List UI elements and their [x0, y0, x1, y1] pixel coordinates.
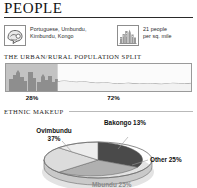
fact-density-line2: per sq. mile [143, 33, 171, 40]
fact-languages-line2: Kimbundu, Kongo [30, 33, 86, 40]
speech-face-icon [4, 25, 26, 46]
fact-density-text: 21 people per sq. mile [143, 24, 171, 41]
fact-languages-line1: Portuguese, Umbundu, [30, 26, 86, 33]
section-rule-ethnic-makeup [69, 111, 193, 112]
urban-rural-chart [5, 63, 192, 92]
urban-percent-label: 28% [5, 94, 59, 101]
rural-percent-label: 72% [59, 94, 192, 101]
city-skyline-icon [117, 25, 139, 46]
urban-rural-legend: 28% 72% [5, 94, 192, 101]
fact-row: Portuguese, Umbundu, Kimbundu, Kongo [4, 24, 193, 46]
fact-languages: Portuguese, Umbundu, Kimbundu, Kongo [4, 24, 117, 46]
fact-density-line1: 21 people [143, 26, 171, 33]
pie-label-other: Other 25% [150, 156, 182, 164]
page-title: PEOPLE [4, 1, 197, 16]
section-title-ethnic-makeup: ETHNIC MAKEUP [4, 108, 64, 115]
urban-rural-chart-svg [6, 64, 191, 91]
title-divider [4, 17, 193, 18]
ethnic-makeup-chart: Bakongo 13% Other 25% Ovimbundu 37% Mbun… [0, 116, 197, 188]
fact-population-density: 21 people per sq. mile [117, 24, 193, 46]
section-title-urban-rural: THE URBAN/RURAL POPULATION SPLIT [4, 53, 141, 60]
section-header-urban-rural: THE URBAN/RURAL POPULATION SPLIT [4, 53, 193, 60]
pie-label-ovimbundu: Ovimbundu 37% [22, 127, 86, 143]
pie-label-ovimbundu-value: 37% [22, 135, 86, 143]
section-header-ethnic-makeup: ETHNIC MAKEUP [4, 108, 193, 115]
pie-label-bakongo: Bakongo 13% [104, 119, 146, 127]
pie-label-mbundu: Mbundu 25% [92, 181, 131, 188]
people-infographic-page: PEOPLE Portuguese, Umbundu, Kimbundu, Ko… [0, 1, 197, 188]
pie-label-ovimbundu-name: Ovimbundu [22, 127, 86, 135]
fact-languages-text: Portuguese, Umbundu, Kimbundu, Kongo [30, 24, 86, 41]
